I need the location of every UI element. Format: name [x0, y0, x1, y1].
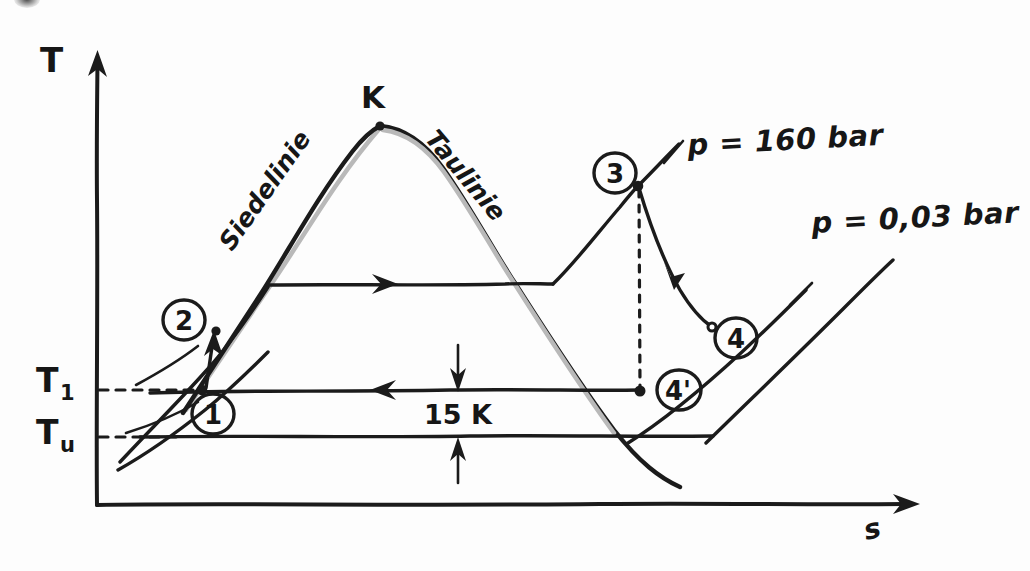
state-badge-2: 2	[163, 300, 205, 340]
state-badge-1-text: 1	[204, 400, 222, 430]
isobar-003bar	[118, 260, 893, 470]
critical-point-label: K	[361, 79, 386, 115]
isobar-160bar-label: p = 160 bar	[686, 118, 886, 162]
isobar-low-curve	[628, 290, 806, 443]
state-point-4-dot	[708, 323, 716, 331]
y-tick-T1-base: T	[36, 361, 59, 400]
isobar-low-stub-upper	[136, 346, 198, 385]
y-tick-T1-sub: 1	[60, 381, 75, 405]
isobar-003bar-label: p = 0,03 bar	[810, 195, 1021, 240]
x-axis-line	[97, 504, 905, 505]
state-badge-4s: 4'	[657, 370, 701, 410]
y-axis-label: T	[40, 40, 64, 80]
state-badge-4s-text: 4'	[665, 376, 691, 406]
text-label-group: T s T 1 T u K Siedelinie Taulinie p = 16…	[36, 40, 1021, 547]
critical-point-dot	[375, 121, 384, 130]
state-badge-3-text: 3	[606, 159, 624, 189]
expansion-group	[634, 182, 716, 395]
y-axis-line	[97, 62, 98, 505]
state-badge-4: 4	[715, 318, 757, 358]
dew-line-label: Taulinie	[419, 124, 511, 226]
state-badge-3: 3	[594, 153, 636, 193]
x-axis-label: s	[861, 511, 884, 547]
state-point-4s-dot	[636, 387, 644, 395]
isobar-high-superheat-curve	[553, 186, 638, 284]
dew-line-shadow	[383, 130, 614, 433]
state-point-2-dot	[211, 326, 220, 335]
expansion-curve-3-to-4	[639, 188, 712, 327]
ambient-line-Tu	[140, 436, 713, 437]
y-tick-label-T1: T 1	[36, 361, 75, 405]
isobar-low-label-leader	[790, 283, 812, 305]
state-point-3-dot	[634, 182, 642, 190]
ts-diagram-svg: 1 2 3 4 4' T	[0, 0, 1030, 571]
delta-temperature-label: 15 K	[424, 399, 493, 430]
y-tick-Tu-sub: u	[60, 433, 75, 457]
isobar-high-label-leader	[664, 141, 683, 163]
isobar-high-tail	[638, 144, 679, 186]
isobar-high-evaporation-line	[268, 284, 553, 285]
diagram-canvas: 1 2 3 4 4' T	[0, 0, 1030, 571]
axis-group	[88, 50, 920, 514]
isentropic-dashed-line	[639, 190, 640, 388]
state-badge-2-text: 2	[175, 306, 193, 336]
state-badge-4-text: 4	[727, 324, 745, 354]
y-tick-label-Tu: T u	[36, 413, 75, 457]
y-tick-Tu-base: T	[36, 413, 59, 452]
